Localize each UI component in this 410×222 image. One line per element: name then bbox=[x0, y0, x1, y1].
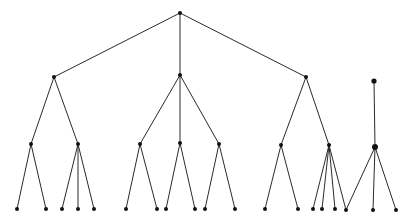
tree-node-l15 bbox=[320, 207, 324, 211]
tree-node-d1 bbox=[372, 144, 378, 150]
tree-node-l11 bbox=[233, 207, 237, 211]
tree-node-c bbox=[304, 75, 308, 79]
tree-node-c2 bbox=[327, 143, 331, 147]
tree-node-l14 bbox=[311, 207, 315, 211]
tree-node-l7 bbox=[155, 207, 159, 211]
tree-node-l13 bbox=[296, 207, 300, 211]
tree-edge bbox=[31, 144, 46, 209]
tree-edge bbox=[126, 144, 140, 209]
tree-edge bbox=[281, 77, 306, 145]
tree-node-l18 bbox=[371, 208, 375, 212]
tree-edge bbox=[346, 147, 375, 210]
tree-nodes bbox=[15, 11, 398, 212]
tree-edge bbox=[17, 144, 31, 209]
tree-diagram bbox=[0, 0, 410, 222]
tree-edge bbox=[54, 77, 78, 144]
tree-edge bbox=[374, 81, 375, 147]
tree-node-l8 bbox=[164, 207, 168, 211]
tree-node-l3 bbox=[60, 207, 64, 211]
tree-node-l9 bbox=[193, 207, 197, 211]
tree-node-l17 bbox=[344, 208, 348, 212]
tree-node-l2 bbox=[44, 207, 48, 211]
tree-node-l1 bbox=[15, 207, 19, 211]
tree-edge bbox=[166, 143, 180, 209]
tree-node-a1 bbox=[29, 142, 33, 146]
tree-node-l4 bbox=[76, 207, 80, 211]
tree-edge bbox=[281, 145, 298, 209]
tree-node-l5 bbox=[92, 207, 96, 211]
tree-edge bbox=[31, 77, 54, 144]
tree-node-root bbox=[178, 11, 182, 15]
tree-edge bbox=[180, 13, 306, 77]
tree-node-l6 bbox=[124, 207, 128, 211]
tree-node-l12 bbox=[263, 207, 267, 211]
tree-edge bbox=[54, 13, 180, 77]
tree-edge bbox=[306, 77, 329, 145]
tree-edge bbox=[373, 147, 375, 210]
tree-node-c1 bbox=[279, 143, 283, 147]
tree-node-b1 bbox=[138, 142, 142, 146]
tree-edges bbox=[17, 13, 396, 210]
tree-node-b2 bbox=[178, 141, 182, 145]
tree-edge bbox=[375, 147, 396, 210]
tree-node-a2 bbox=[76, 142, 80, 146]
tree-edge bbox=[180, 75, 219, 144]
tree-node-l10 bbox=[203, 207, 207, 211]
tree-node-d bbox=[371, 78, 376, 83]
tree-edge bbox=[62, 144, 78, 209]
tree-node-l16 bbox=[333, 207, 337, 211]
tree-edge bbox=[78, 144, 94, 209]
tree-edge bbox=[265, 145, 281, 209]
tree-edge bbox=[322, 145, 329, 209]
tree-node-l19 bbox=[394, 208, 398, 212]
tree-edge bbox=[180, 143, 195, 209]
tree-node-a bbox=[52, 75, 56, 79]
tree-edge bbox=[140, 144, 157, 209]
tree-edge bbox=[219, 144, 235, 209]
tree-edge bbox=[205, 144, 219, 209]
tree-edge bbox=[313, 145, 329, 209]
tree-edge bbox=[140, 75, 180, 144]
tree-node-b3 bbox=[217, 142, 221, 146]
tree-node-b bbox=[178, 73, 182, 77]
